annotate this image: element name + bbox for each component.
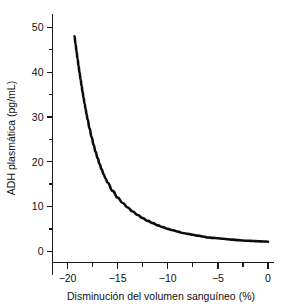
x-tick-label: −5 (212, 272, 224, 284)
y-axis-title: ADH plasmática (pg/mL) (5, 81, 17, 195)
adh-blood-volume-plot: 01020304050 −20−15−10−50 ADH plasmática … (0, 0, 290, 306)
chart-figure: 01020304050 −20−15−10−50 ADH plasmática … (0, 0, 290, 306)
x-axis-ticks (68, 263, 268, 269)
y-tick-label: 20 (32, 156, 44, 168)
y-tick-label: 30 (32, 111, 44, 123)
y-tick-label: 0 (38, 245, 44, 257)
x-tick-label: −20 (59, 272, 77, 284)
x-tick-label: 0 (265, 272, 271, 284)
y-tick-label: 40 (32, 66, 44, 78)
x-tick-label: −15 (109, 272, 127, 284)
y-axis-tick-labels: 01020304050 (32, 21, 44, 257)
y-tick-label: 50 (32, 21, 44, 33)
y-axis-ticks (47, 27, 53, 251)
x-tick-label: −10 (159, 272, 177, 284)
y-tick-label: 10 (32, 200, 44, 212)
adh-decay-curve (75, 36, 268, 241)
axis-lines (53, 14, 275, 275)
x-axis-title: Disminución del volumen sanguíneo (%) (67, 290, 255, 302)
x-axis-tick-labels: −20−15−10−50 (59, 272, 271, 284)
